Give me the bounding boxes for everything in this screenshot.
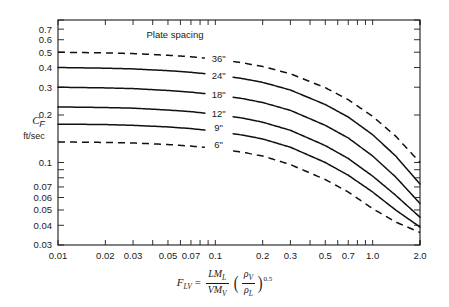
y-axis-tick-label: 0.3 [39,82,52,93]
cf-vs-flv-chart: 0.010.020.030.050.070.10.20.30.50.71.02.… [0,0,449,307]
y-axis-tick-label: 0.04 [34,220,53,231]
x-axis-tick-label: 0.01 [49,250,68,261]
x-axis-tick-label: 0.07 [182,250,201,261]
y-axis-tick-label: 0.4 [39,62,52,73]
y-axis-tick-label: 0.07 [34,181,53,192]
x-axis-tick-label: 0.1 [209,250,222,261]
y-axis-tick-label: 0.03 [34,239,53,250]
curve-18in [233,97,420,203]
y-axis-tick-label: 0.1 [39,157,52,168]
curve-36in [58,52,205,58]
curve-24in [58,68,205,74]
curve-label-24in: 24" [212,70,226,81]
formula-num-2-sub: L [222,273,226,282]
x-axis-tick-label: 2.0 [413,250,426,261]
curve-label-6in: 6" [214,139,223,150]
curve-label-12in: 12" [212,108,226,119]
x-axis-tick-label: 1.0 [366,250,379,261]
x-axis-tick-label: 0.03 [124,250,143,261]
x-axis-tick-label: 0.7 [342,250,355,261]
x-axis-tick-label: 0.5 [319,250,332,261]
y-axis-title-subscript: F [39,119,45,129]
x-axis-tick-label: 0.3 [284,250,297,261]
curve-18in [58,87,205,93]
plate-spacing-annotation: Plate spacing [146,29,203,40]
y-axis-tick-label: 0.5 [39,47,52,58]
x-axis-tick-label: 0.02 [96,250,115,261]
curve-9in [58,124,205,130]
curve-label-9in: 9" [214,122,223,133]
curve-24in [233,77,420,184]
formula-lhs-sub: LV [183,282,191,291]
x-axis-tick-label: 0.05 [159,250,178,261]
formula-density-ratio: ρV ρL [242,268,255,298]
formula-exponent: 0.5 [264,275,273,283]
y-axis-units-label: ft/sec [23,131,45,141]
formula-num-2: M [214,268,222,279]
y-axis-tick-label: 0.05 [34,204,53,215]
formula-paren-open: ( [234,272,239,294]
formula-rho-v-sub: V [249,273,254,282]
curve-12in [58,107,205,113]
formula-den-2-sub: V [222,289,227,298]
figure-container: 0.010.020.030.050.070.10.20.30.50.71.02.… [0,0,449,307]
curve-label-18in: 18" [212,89,226,100]
formula-rho-l-sub: L [249,289,253,298]
formula-equals: = [195,276,201,288]
formula-den-2: M [214,284,222,295]
y-axis-tick-label: 0.06 [34,192,53,203]
curve-label-36in: 36" [212,53,226,64]
formula-paren-close: ) [258,272,263,294]
curve-12in [233,117,420,217]
curve-36in [233,62,420,163]
y-axis-tick-label: 0.6 [39,34,52,45]
formula-main-fraction: LML VMV [206,268,229,298]
curve-6in [58,142,205,147]
x-axis-tick-label: 0.2 [256,250,269,261]
y-axis-tick-label: 0.7 [39,24,52,35]
x-axis-formula-label: FLV = LML VMV ( ρV ρL )0.5 [0,268,449,298]
